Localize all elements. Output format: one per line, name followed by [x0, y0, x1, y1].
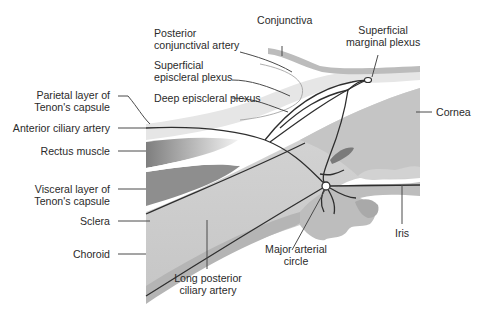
eye-anterior-segment-diagram: Posterior conjunctival artery Conjunctiv… — [0, 0, 490, 309]
label-choroid: Choroid — [40, 248, 110, 260]
label-conjunctiva: Conjunctiva — [257, 14, 312, 26]
label-rectus-muscle: Rectus muscle — [20, 145, 110, 157]
label-cornea: Cornea — [436, 106, 471, 118]
label-superficial-episcleral-plexus: Superficial episcleral plexus — [154, 59, 232, 84]
label-posterior-conjunctival-artery: Posterior conjunctival artery — [154, 27, 239, 52]
superficial-marginal-plexus-node — [365, 78, 372, 83]
label-parietal-tenon: Parietal layer of Tenon's capsule — [30, 89, 110, 114]
label-visceral-tenon: Visceral layer of Tenon's capsule — [20, 183, 110, 208]
label-deep-episcleral-plexus: Deep episcleral plexus — [154, 92, 261, 104]
major-arterial-circle-node — [322, 182, 330, 190]
label-anterior-ciliary-artery: Anterior ciliary artery — [2, 122, 110, 134]
label-superficial-marginal-plexus: Superficial marginal plexus — [346, 24, 420, 49]
label-iris: Iris — [395, 227, 409, 239]
label-major-arterial-circle: Major arterial circle — [256, 243, 336, 268]
label-long-posterior-ciliary-artery: Long posterior ciliary artery — [168, 272, 248, 297]
conjunctiva-layer — [268, 48, 420, 74]
label-sclera: Sclera — [40, 215, 110, 227]
